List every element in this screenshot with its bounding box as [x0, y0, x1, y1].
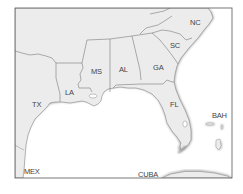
label-bah: BAH — [212, 111, 227, 120]
label-la: LA — [65, 88, 74, 97]
lake-okeechobee — [183, 121, 187, 127]
map: NC SC GA AL MS LA TX FL BAH MEX CUBA — [0, 0, 243, 194]
label-al: AL — [119, 65, 128, 74]
label-ga: GA — [153, 63, 164, 72]
lake-pontchartrain — [89, 94, 97, 98]
label-fl: FL — [170, 100, 178, 109]
label-mex: MEX — [24, 167, 40, 176]
label-sc: SC — [170, 41, 181, 50]
label-nc: NC — [190, 18, 201, 27]
label-tx: TX — [32, 100, 41, 109]
label-ms: MS — [91, 67, 102, 76]
label-cuba: CUBA — [138, 170, 158, 179]
